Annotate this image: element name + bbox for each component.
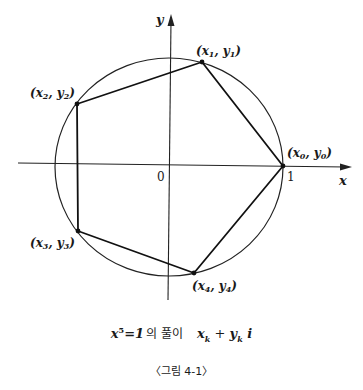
x-axis — [18, 163, 346, 167]
figure-number: 〈그림 4-1〉 — [0, 362, 363, 378]
point-label-0: (x0, y0) — [287, 147, 332, 160]
point-label-2: (x2, y2) — [30, 87, 75, 100]
vertex-0 — [281, 164, 286, 169]
y-axis — [168, 20, 171, 300]
y-axis-label: y — [156, 13, 164, 26]
vertex-3 — [76, 229, 81, 234]
point-label-1: (x1, y1) — [196, 45, 241, 58]
figure-caption: x5=1의 풀이 xk + yk i — [0, 326, 363, 343]
point-label-3: (x3, y3) — [30, 237, 75, 250]
x-axis-label: x — [339, 174, 347, 187]
caption-lhs: x5=1 — [111, 326, 144, 341]
caption-rhs: xk + yk i — [197, 326, 252, 341]
point-label-4: (x4, y4) — [192, 280, 237, 293]
vertex-4 — [192, 271, 197, 276]
x-axis-arrow-icon — [340, 164, 352, 171]
vertex-2 — [75, 102, 80, 107]
unit-label: 1 — [287, 171, 295, 183]
y-axis-arrow-icon — [168, 14, 175, 26]
caption-korean: 의 풀이 — [146, 327, 183, 341]
origin-label: 0 — [157, 171, 165, 183]
vertex-1 — [200, 60, 205, 65]
